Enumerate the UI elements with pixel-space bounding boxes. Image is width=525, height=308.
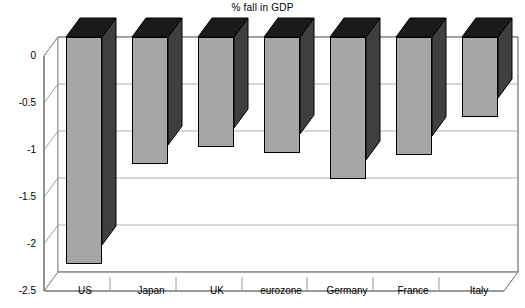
bar-france bbox=[396, 37, 432, 155]
bar-japan-side bbox=[168, 18, 182, 145]
bar-germany-side bbox=[366, 18, 380, 160]
bar-france-front bbox=[396, 37, 432, 155]
bar-germany bbox=[330, 37, 366, 179]
left-wall bbox=[44, 37, 58, 291]
x-tick-japan: Japan bbox=[118, 286, 184, 296]
bar-eurozone-front bbox=[264, 37, 300, 153]
x-tick-us: US bbox=[52, 286, 118, 296]
bar-france-side bbox=[432, 18, 446, 136]
x-tick-eurozone: eurozone bbox=[248, 286, 314, 296]
gdp-fall-bar-chart: % fall in GDP bbox=[0, 0, 525, 308]
x-tick-germany: Germany bbox=[314, 286, 380, 296]
bar-japan-front bbox=[132, 37, 168, 164]
bar-germany-front bbox=[330, 37, 366, 179]
x-tick-uk: UK bbox=[184, 286, 250, 296]
bar-us bbox=[66, 37, 102, 264]
x-tick-italy: Italy bbox=[446, 286, 512, 296]
bar-uk bbox=[198, 37, 234, 147]
bar-eurozone bbox=[264, 37, 300, 153]
bar-eurozone-side bbox=[300, 18, 314, 134]
bar-italy bbox=[462, 37, 498, 117]
bar-uk-front bbox=[198, 37, 234, 147]
bar-us-side bbox=[102, 18, 116, 245]
bar-italy-front bbox=[462, 37, 498, 117]
bar-japan bbox=[132, 37, 168, 164]
x-tick-france: France bbox=[380, 286, 446, 296]
bar-us-front bbox=[66, 37, 102, 264]
